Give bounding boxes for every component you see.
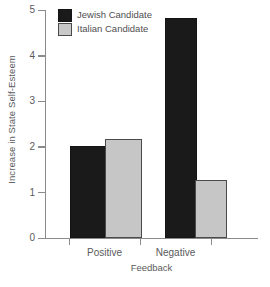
legend-label-jewish-candidate: Jewish Candidate (77, 10, 152, 20)
y-tick-4: 4 (38, 55, 45, 56)
plot-area (45, 10, 258, 238)
x-tick-left (69, 239, 70, 245)
y-tick-label-3: 3 (29, 96, 35, 106)
x-tick-middle (140, 239, 141, 245)
bar-italian-positive (105, 139, 142, 238)
legend-item-italian-candidate: Italian Candidate (58, 23, 152, 35)
chart-legend: Jewish Candidate Italian Candidate (58, 9, 152, 35)
legend-label-italian-candidate: Italian Candidate (77, 24, 148, 34)
bar-chart-figure: Increase in State Self-Esteem 5 4 3 2 1 … (0, 0, 270, 287)
legend-swatch-italian-candidate (58, 23, 72, 36)
y-axis-title: Increase in State Self-Esteem (0, 0, 22, 238)
x-tick-right (211, 239, 212, 245)
legend-swatch-jewish-candidate (58, 9, 72, 22)
y-tick-label-1: 1 (29, 188, 35, 198)
y-tick-3: 3 (38, 101, 45, 102)
legend-item-jewish-candidate: Jewish Candidate (58, 9, 152, 21)
y-tick-5: 5 (38, 10, 45, 11)
bar-italian-negative (195, 180, 227, 238)
x-axis-line (45, 238, 258, 239)
y-tick-2: 2 (38, 146, 45, 147)
x-tick-label-negative: Negative (135, 247, 216, 258)
y-tick-label-0: 0 (29, 233, 35, 243)
x-axis-title: Feedback (45, 262, 258, 273)
bar-jewish-positive (70, 146, 107, 238)
y-tick-label-2: 2 (29, 142, 35, 152)
y-tick-label-5: 5 (29, 5, 35, 15)
y-axis-title-text: Increase in State Self-Esteem (6, 55, 17, 184)
bar-jewish-negative (165, 18, 197, 238)
y-tick-1: 1 (38, 192, 45, 193)
x-tick-label-positive: Positive (64, 247, 145, 258)
y-tick-0: 0 (38, 238, 45, 239)
y-tick-label-4: 4 (29, 51, 35, 61)
